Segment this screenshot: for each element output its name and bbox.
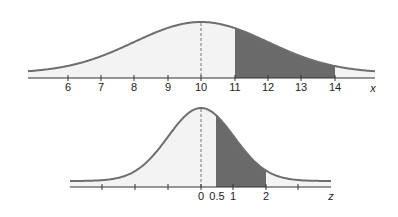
normal-distribution-diagram: 6 7 8 9 10 11 12 13 14 x 0 0.5 1 2 z <box>0 0 398 217</box>
z-tick-label-2: 2 <box>263 190 269 202</box>
z-tick-label-0.5: 0.5 <box>209 190 224 202</box>
tick-label-8: 8 <box>131 81 137 93</box>
tick-label-13: 13 <box>295 81 307 93</box>
tick-label-10: 10 <box>195 81 207 93</box>
x-axis-variable-label: x <box>369 82 376 94</box>
tick-label-7: 7 <box>98 81 104 93</box>
top-axis-labels: 6 7 8 9 10 11 12 13 14 x <box>65 81 376 94</box>
z-tick-label-1: 1 <box>230 190 236 202</box>
tick-label-14: 14 <box>329 81 341 93</box>
tick-label-11: 11 <box>229 81 240 93</box>
z-tick-label-0: 0 <box>198 190 204 202</box>
bottom-standard-normal-curve-z <box>70 108 331 190</box>
bottom-axis-labels: 0 0.5 1 2 z <box>198 190 334 202</box>
tick-label-12: 12 <box>262 81 274 93</box>
z-axis-variable-label: z <box>327 190 334 202</box>
shaded-probability-region <box>216 115 266 187</box>
top-normal-curve-x <box>28 22 375 81</box>
shaded-probability-region <box>235 28 335 78</box>
tick-label-6: 6 <box>65 81 71 93</box>
tick-label-9: 9 <box>165 81 171 93</box>
